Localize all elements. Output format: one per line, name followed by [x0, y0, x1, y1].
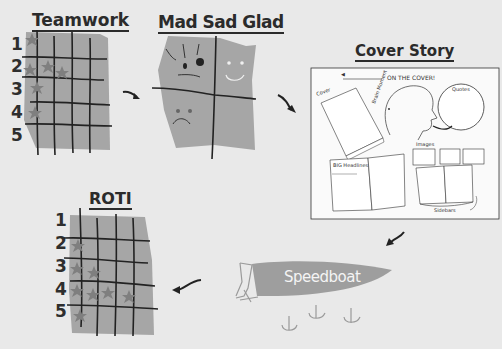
roti-grid — [0, 0, 502, 349]
retrospective-activities-diagram: Teamwork 1 2 3 4 5 Mad Sad Glad — [0, 0, 502, 349]
arrow-icon — [178, 280, 201, 290]
arrowhead-icon — [172, 286, 180, 294]
